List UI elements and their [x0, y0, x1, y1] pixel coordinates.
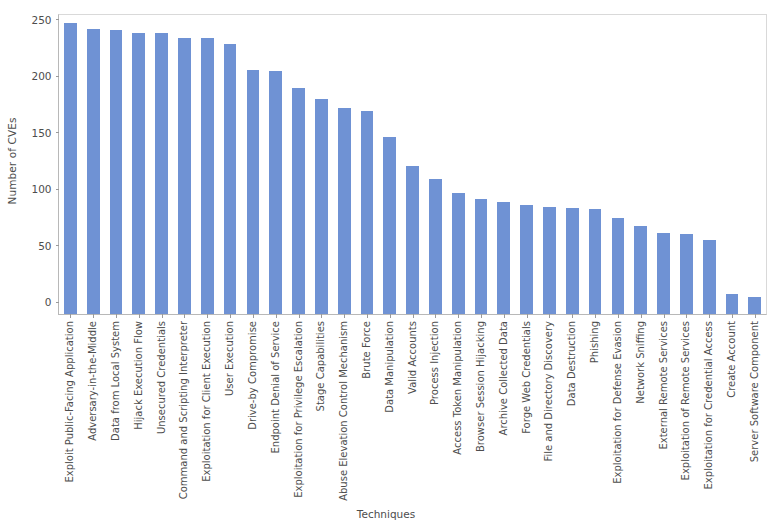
bar [132, 33, 145, 314]
bar-cell [333, 15, 356, 314]
bar [589, 209, 602, 314]
x-tick-mark [618, 314, 619, 318]
bar-cell [470, 15, 493, 314]
x-tick: Exploit Public-Facing Application [59, 316, 82, 506]
y-axis-title-text: Number of CVEs [5, 118, 17, 205]
x-tick: Unsecured Credentials [150, 316, 173, 506]
x-tick: Data from Local System [105, 316, 128, 506]
bar [201, 38, 214, 314]
y-tick-label: 150 [31, 127, 55, 139]
x-tick-label: Unsecured Credentials [157, 321, 167, 434]
bar [269, 71, 282, 314]
x-tick-label: Server Software Component [750, 321, 760, 462]
x-tick: User Execution [219, 316, 242, 506]
x-tick-mark [139, 314, 140, 318]
x-tick-label: Brute Force [362, 321, 372, 379]
x-tick-label: Command and Scripting Interpreter [179, 321, 189, 499]
x-tick-mark [664, 314, 665, 318]
x-axis-ticks: Exploit Public-Facing ApplicationAdversa… [59, 316, 766, 506]
bar-cell [652, 15, 675, 314]
bar [247, 70, 260, 314]
x-tick-label: Exploitation for Defense Evasion [613, 321, 623, 484]
bar [520, 205, 533, 314]
x-tick: Hijack Execution Flow [127, 316, 150, 506]
x-tick: Data Manipulation [378, 316, 401, 506]
y-tick-label: 100 [31, 183, 55, 195]
bar-cell [561, 15, 584, 314]
bar [497, 202, 510, 314]
x-tick-mark [70, 314, 71, 318]
x-tick-mark [230, 314, 231, 318]
x-tick-mark [162, 314, 163, 318]
x-axis-title-text: Techniques [357, 508, 415, 520]
x-tick-mark [184, 314, 185, 318]
x-tick-mark [390, 314, 391, 318]
x-tick-mark [344, 314, 345, 318]
x-tick-mark [116, 314, 117, 318]
x-tick: Phishing [584, 316, 607, 506]
x-tick: Access Token Manipulation [447, 316, 470, 506]
x-tick: External Remote Services [652, 316, 675, 506]
plot-area: 050100150200250 [58, 14, 767, 315]
x-tick-label: Exploitation for Credential Access [704, 321, 714, 489]
bar [110, 30, 123, 314]
bar [178, 38, 191, 314]
y-tick-label: 0 [45, 296, 56, 308]
bar [338, 108, 351, 314]
bar-cell [721, 15, 744, 314]
x-tick-mark [481, 314, 482, 318]
bar [155, 33, 168, 314]
bar-cell [59, 15, 82, 314]
x-tick-mark [207, 314, 208, 318]
x-tick-mark [755, 314, 756, 318]
bar [657, 233, 670, 314]
y-tick: 200 [31, 70, 59, 82]
y-tick: 50 [38, 240, 59, 252]
bar [452, 193, 465, 314]
x-tick: Exploitation for Privilege Escalation [287, 316, 310, 506]
x-tick-label: External Remote Services [659, 321, 669, 450]
x-tick-label: Valid Accounts [408, 321, 418, 394]
bar-cell [401, 15, 424, 314]
x-tick-mark [595, 314, 596, 318]
x-tick-label: Exploitation for Privilege Escalation [294, 321, 304, 498]
bar [612, 218, 625, 314]
bar-cell [378, 15, 401, 314]
x-tick-mark [732, 314, 733, 318]
x-tick: Create Account [721, 316, 744, 506]
x-tick-label: Adversary-in-the-Middle [88, 321, 98, 441]
x-tick-mark [253, 314, 254, 318]
x-tick-label: Data from Local System [111, 321, 121, 441]
x-tick: Forge Web Credentials [515, 316, 538, 506]
bar [566, 208, 579, 314]
bar [64, 23, 77, 314]
bar-cell [675, 15, 698, 314]
x-tick: Stage Capabilities [310, 316, 333, 506]
x-tick: Archive Collected Data [492, 316, 515, 506]
x-tick: Exploitation for Client Execution [196, 316, 219, 506]
y-tick: 0 [45, 296, 59, 308]
x-tick-mark [435, 314, 436, 318]
x-tick-label: Exploitation of Remote Services [681, 321, 691, 480]
bar-cell [607, 15, 630, 314]
bar [406, 166, 419, 314]
bar-cell [629, 15, 652, 314]
bar-cell [264, 15, 287, 314]
x-tick-label: Data Destruction [567, 321, 577, 406]
y-tick: 100 [31, 183, 59, 195]
x-tick: Abuse Elevation Control Mechanism [333, 316, 356, 506]
y-tick: 250 [31, 14, 59, 26]
bar [726, 294, 739, 314]
bar [224, 44, 237, 314]
x-tick-mark [299, 314, 300, 318]
bar [429, 179, 442, 314]
x-tick: Server Software Component [743, 316, 766, 506]
x-tick: Process Injection [424, 316, 447, 506]
x-tick: Browser Session Hijacking [470, 316, 493, 506]
x-tick-mark [93, 314, 94, 318]
x-axis-title: Techniques [0, 508, 772, 520]
x-tick-label: Drive-by Compromise [248, 321, 258, 430]
x-tick: Data Destruction [561, 316, 584, 506]
bar-cell [219, 15, 242, 314]
bar [543, 207, 556, 314]
